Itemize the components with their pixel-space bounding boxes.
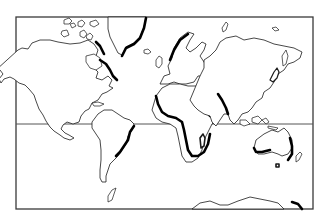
novaya-zemlya xyxy=(222,22,228,32)
tasmania xyxy=(276,164,279,167)
antarctica xyxy=(192,197,284,209)
new-zealand xyxy=(296,152,302,162)
antarctica-coast-emphasis xyxy=(292,202,302,209)
south-america xyxy=(92,110,134,182)
world-map: world-map xyxy=(0,0,330,221)
map-canvas xyxy=(0,0,330,221)
caribbean-islands xyxy=(92,102,104,106)
new-siberian-islands xyxy=(272,27,279,31)
antarctic-peninsula xyxy=(108,188,116,202)
madagascar xyxy=(200,134,205,148)
southeast-asia-islands xyxy=(240,116,278,130)
asia xyxy=(190,36,302,126)
british-isles xyxy=(156,56,162,68)
iceland xyxy=(144,49,151,54)
